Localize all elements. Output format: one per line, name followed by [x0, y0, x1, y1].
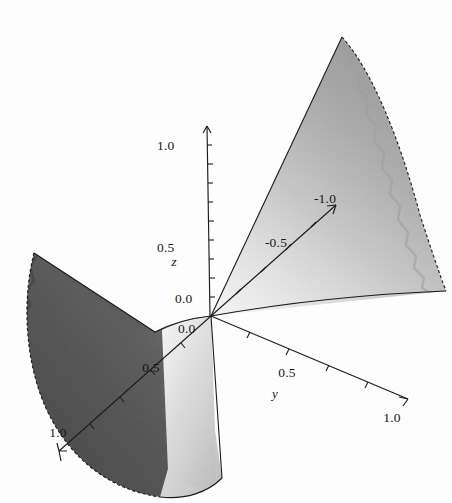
surface-lower-left-light-overlay: [162, 316, 216, 487]
axis-label-z: z: [170, 254, 176, 269]
surface-lower-left: [22, 253, 222, 498]
surface-upper-right-fill: [211, 37, 446, 316]
surface-plot-figure: 1.0 0.5 z 0.0 0.0 -1.0 -0.5 0.5 1.0 0.5 …: [0, 0, 452, 503]
x-tick-label-neg-1: -1.0: [314, 191, 336, 206]
plot-canvas: 1.0 0.5 z 0.0 0.0 -1.0 -0.5 0.5 1.0 0.5 …: [0, 0, 452, 503]
axis-y-arrowhead: [399, 397, 408, 406]
z-tick-label-0-5: 0.5: [157, 240, 175, 255]
axis-y: [211, 316, 408, 406]
x-tick-label-1: 1.0: [49, 425, 67, 440]
x-tick-label-neg-0-5: -0.5: [265, 235, 287, 250]
axis-y-line: [211, 316, 408, 399]
z-tick-label-1: 1.0: [157, 138, 175, 153]
axis-z: [203, 126, 215, 316]
y-tick-label-1: 1.0: [383, 410, 401, 425]
x-tick-label-0: 0.0: [178, 321, 196, 336]
x-tick-label-0-5: 0.5: [142, 360, 160, 375]
z-tick-label-0: 0.0: [175, 291, 193, 306]
axis-y-ticks: [247, 332, 368, 388]
axis-label-y: y: [270, 386, 278, 401]
surface-upper-right: [211, 37, 446, 316]
y-tick-label-0-5: 0.5: [278, 365, 296, 380]
